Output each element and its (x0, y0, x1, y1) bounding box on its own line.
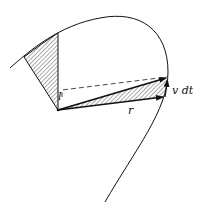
label-vdt: v dt (172, 84, 194, 97)
label-l: l (58, 90, 62, 103)
orbit-curve (10, 16, 168, 202)
orbit-diagram: l r v dt (0, 0, 198, 211)
origin-point (57, 109, 60, 112)
label-r: r (128, 104, 134, 117)
swept-area-left (24, 33, 58, 110)
